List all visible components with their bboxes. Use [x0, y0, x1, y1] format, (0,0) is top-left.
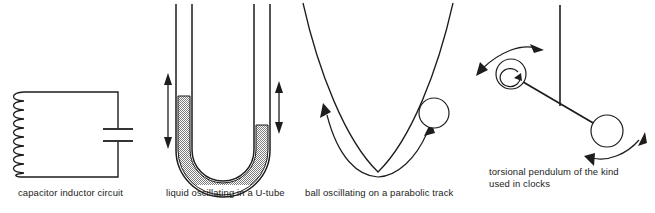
double-headed-curved-arrow	[320, 103, 435, 177]
tube-inner-wall	[192, 4, 254, 181]
inductor-coil	[14, 92, 25, 177]
capacitor-inductor-circuit-diagram	[14, 92, 134, 177]
caption-capacitor-inductor-circuit: capacitor inductor circuit	[18, 187, 123, 199]
right-double-arrow	[275, 81, 283, 134]
caption-torsional-pendulum: torsional pendulum of the kind used in c…	[489, 166, 619, 189]
circuit-wire-top	[24, 92, 118, 128]
ball	[419, 98, 449, 128]
caption-u-tube: liquid oscillating in a U-tube	[166, 187, 285, 199]
torsional-pendulum-diagram	[476, 5, 647, 166]
horizontal-bar	[518, 79, 600, 127]
caption-parabolic-track: ball oscillating on a parabolic track	[305, 187, 453, 199]
parabola-curve	[303, 3, 453, 172]
u-tube-diagram	[164, 4, 283, 197]
oscillating-systems-figure: capacitor inductor circuit liquid oscill…	[0, 0, 655, 213]
right-ball	[591, 115, 623, 147]
left-double-arrow	[164, 73, 172, 149]
circuit-wire-bottom	[24, 142, 118, 177]
parabolic-track-diagram	[303, 3, 453, 177]
